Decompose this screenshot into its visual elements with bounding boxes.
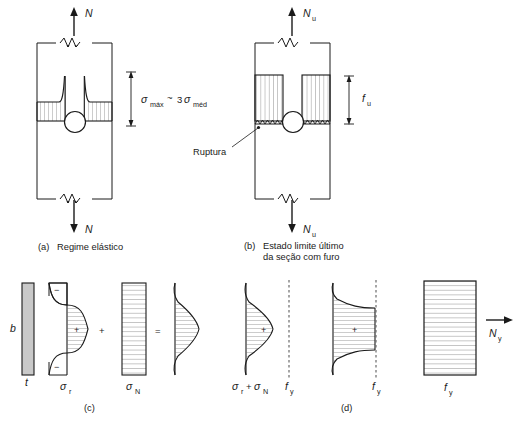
panel-d-id: (d) xyxy=(341,403,352,413)
axial-stress-diagram-c xyxy=(122,283,146,375)
stress-block-right-b xyxy=(302,75,330,121)
operator-plus-c: + xyxy=(99,325,105,336)
sigma-max-subscript: máx xyxy=(150,100,164,109)
sigma-med-subscript: méd xyxy=(193,100,207,109)
cross-section-c xyxy=(22,283,34,375)
factor-three: 3 xyxy=(177,94,182,105)
force-symbol-bottom-b: N xyxy=(303,223,311,235)
force-symbol-top-b: N xyxy=(303,7,311,19)
fy-subscript-d3: y xyxy=(449,388,453,397)
sigma-N-symbol: σ xyxy=(126,380,133,392)
Ny-symbol: N xyxy=(489,327,497,339)
force-subscript-top-b: u xyxy=(312,14,316,23)
width-label-b: b xyxy=(10,322,16,334)
hole-a xyxy=(65,112,86,133)
force-subscript-bottom-b: u xyxy=(312,230,316,239)
panel-b-caption-line2: da seção com furo xyxy=(263,252,339,262)
hole-b xyxy=(283,112,304,133)
elastic-combined-sign-d: + xyxy=(261,325,266,335)
sigma-r-symbol: σ xyxy=(60,380,67,392)
panel-c-id: (c) xyxy=(84,403,95,413)
operator-equals-c: = xyxy=(155,325,161,336)
panel-b-caption-line1: Estado limite último xyxy=(263,241,344,251)
Ny-subscript: y xyxy=(498,334,502,343)
plus-operator-d: + xyxy=(246,381,252,392)
engineering-figure: N xyxy=(0,0,521,422)
panel-a-id: (a) xyxy=(38,242,49,252)
panel-b-id: (b) xyxy=(244,241,255,251)
sigma-N-sub-d: N xyxy=(263,387,268,396)
fy-subscript-d1: y xyxy=(290,387,294,396)
sigma-r-part-d: σ xyxy=(232,380,239,392)
residual-sign-mid: + xyxy=(74,325,79,335)
approx-symbol: ~ xyxy=(167,92,173,103)
full-yield-diagram-d xyxy=(424,281,476,375)
fracture-label-b: Ruptura xyxy=(193,147,227,157)
residual-sign-bottom: − xyxy=(54,362,59,372)
sigma-N-subscript: N xyxy=(135,387,140,396)
partial-yield-sign-d: + xyxy=(352,325,357,335)
sigma-max-symbol: σ xyxy=(141,93,148,105)
force-label-top-a: N xyxy=(85,7,93,19)
stress-block-left-b xyxy=(255,75,283,121)
force-label-bottom-a: N xyxy=(85,223,93,235)
residual-sign-top: − xyxy=(54,285,59,295)
sigma-N-part-d: σ xyxy=(254,380,261,392)
fu-subscript: u xyxy=(367,99,371,108)
panel-a-caption: Regime elástico xyxy=(57,242,123,252)
sigma-med-symbol: σ xyxy=(184,93,191,105)
fy-subscript-d2: y xyxy=(377,387,381,396)
